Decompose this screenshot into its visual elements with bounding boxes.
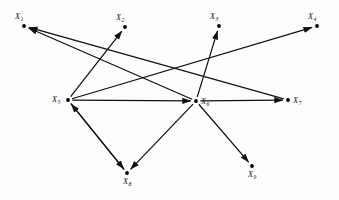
node-label-x6: X6 [200,97,209,107]
graph-figure: X1X2X3X4X5X6X7X8X9 [0,0,339,200]
node-label-x2: X2 [115,13,124,23]
node-label-x4: X4 [307,12,316,22]
node-x5[interactable]: X5 [51,95,70,105]
node-x4[interactable]: X4 [307,12,319,28]
node-subscript-x4: 4 [313,16,316,22]
edge-x6-to-x1 [29,28,192,99]
node-label-x1: X1 [14,12,23,22]
edge-x7-to-x1 [29,27,284,98]
node-dot-x9[interactable] [250,164,254,168]
node-label-x7: X7 [292,96,301,106]
node-subscript-x7: 7 [298,100,301,106]
node-x3[interactable]: X3 [209,12,221,28]
edge-x6-to-x7 [200,100,283,101]
edge-x6-to-x9 [199,104,249,162]
node-dot-x2[interactable] [123,25,127,29]
node-dot-x4[interactable] [315,24,319,28]
graph-canvas: X1X2X3X4X5X6X7X8X9 [0,0,339,200]
edge-x6-to-x3 [197,31,217,97]
node-x8[interactable]: X8 [122,171,131,187]
node-label-x3: X3 [209,12,218,22]
node-subscript-x5: 5 [57,99,60,105]
node-subscript-x6: 6 [206,101,209,107]
node-subscript-x9: 9 [253,174,256,180]
edge-layer [29,27,312,169]
node-dot-x6[interactable] [194,99,198,103]
node-x9[interactable]: X9 [247,164,256,180]
node-subscript-x3: 3 [214,16,218,22]
node-label-x8: X8 [122,177,131,187]
node-label-x9: X9 [247,170,256,180]
node-x6[interactable]: X6 [194,97,209,107]
node-dot-x7[interactable] [286,98,290,102]
node-dot-x5[interactable] [66,98,70,102]
node-dot-x3[interactable] [217,24,221,28]
edge-x8-to-x5 [71,104,124,170]
node-subscript-x2: 2 [121,17,124,23]
node-subscript-x8: 8 [128,181,131,187]
node-label-x5: X5 [51,95,60,105]
edge-x5-to-x6 [72,100,191,101]
node-x2[interactable]: X2 [115,13,127,29]
node-dot-x8[interactable] [125,171,129,175]
node-x7[interactable]: X7 [286,96,301,106]
node-dot-x1[interactable] [22,24,26,28]
node-x1[interactable]: X1 [14,12,26,28]
edge-x6-to-x8 [131,104,193,169]
node-subscript-x1: 1 [20,16,23,22]
